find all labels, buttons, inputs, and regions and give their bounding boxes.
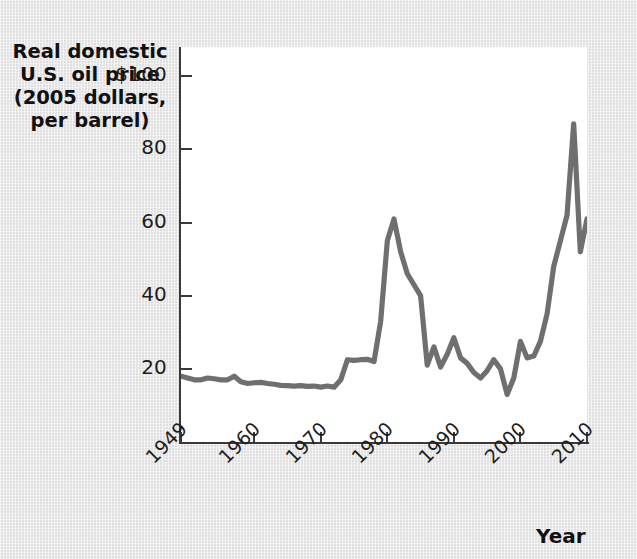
y-axis-spine	[179, 47, 181, 444]
y-tick-label-60: 60	[141, 209, 167, 233]
y-tick-mark-40	[181, 295, 192, 297]
data-series-line	[181, 124, 587, 395]
y-axis-title-line-1: Real domestic	[6, 40, 174, 63]
y-axis-title-line-3: (2005 dollars,	[6, 86, 174, 109]
y-tick-label-20: 20	[141, 355, 167, 379]
y-tick-mark-80	[181, 148, 192, 150]
y-tick-mark-100	[181, 75, 192, 77]
y-tick-label-80: 80	[141, 135, 167, 159]
y-axis-title-line-4: per barrel)	[6, 109, 174, 132]
y-tick-mark-20	[181, 368, 192, 370]
chart-figure: Real domestic U.S. oil price (2005 dolla…	[0, 0, 637, 559]
plot-area	[181, 47, 587, 442]
y-tick-mark-60	[181, 222, 192, 224]
line-chart-svg	[181, 47, 587, 442]
y-tick-label-100: $100	[115, 62, 167, 86]
x-axis-title: Year	[536, 524, 586, 548]
y-tick-label-40: 40	[141, 282, 167, 306]
